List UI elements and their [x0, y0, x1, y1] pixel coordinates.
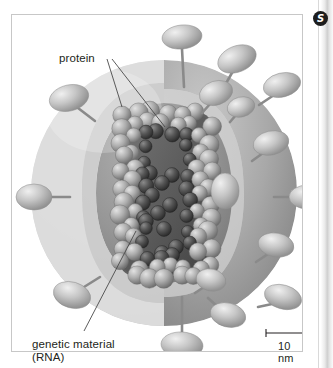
spike-lower-right [258, 280, 302, 314]
label-genetic-material-line1: genetic material [32, 338, 115, 350]
capsid-subunit [140, 222, 153, 235]
spike-upper-right [259, 69, 302, 105]
figure-root: S [0, 0, 333, 368]
capsid-subunit [155, 176, 170, 191]
figure-stage: protein genetic material(RNA) 10 nm [12, 15, 302, 351]
label-genetic-material: genetic material(RNA) [32, 338, 115, 364]
capsid-subunit [180, 209, 193, 222]
virus-illustration [12, 15, 302, 351]
scale-bar [266, 329, 302, 337]
chapter-badge: S [313, 11, 328, 26]
spike-surface-d [208, 298, 249, 331]
capsid-subunit [157, 222, 172, 237]
scale-bar-label: 10 nm [278, 340, 302, 364]
capsid-subunit [154, 269, 174, 289]
capsid-subunit [189, 243, 207, 261]
label-protein: protein [59, 52, 95, 65]
capsid-subunit [139, 140, 152, 153]
spike-surface-g [211, 173, 239, 209]
capsid-subunit [139, 125, 153, 139]
page-edge-shading [318, 0, 333, 368]
capsid-subunit [180, 139, 193, 152]
label-genetic-material-line2: (RNA) [32, 351, 64, 363]
page-edge-rule [318, 0, 319, 368]
figure-frame: protein genetic material(RNA) 10 nm [11, 14, 303, 352]
capsid-subunit [165, 127, 180, 142]
